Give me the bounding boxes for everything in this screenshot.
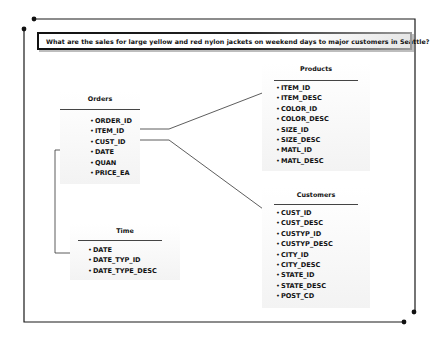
bullet-icon: •: [276, 282, 280, 290]
field-quan: •QUAN: [90, 158, 132, 168]
connector-item-id: [133, 90, 270, 129]
connector-cust-id: [133, 140, 274, 217]
field-label: CITY_DESC: [281, 261, 320, 269]
bullet-icon: •: [276, 292, 280, 300]
bullet-icon: •: [88, 267, 92, 275]
field-color-desc: •COLOR_DESC: [276, 114, 329, 124]
customers-field-list: •CUST_ID •CUST_DESC •CUSTYP_ID •CUSTYP_D…: [276, 208, 333, 302]
bullet-icon: •: [276, 115, 280, 123]
bullet-icon: •: [276, 230, 280, 238]
products-title: Products: [262, 65, 370, 73]
question-banner: What are the sales for large yellow and …: [37, 32, 412, 50]
field-label: CUST_ID: [281, 209, 312, 217]
field-item-id: •ITEM_ID: [276, 83, 329, 93]
field-color-id: •COLOR_ID: [276, 104, 329, 114]
field-city-desc: •CITY_DESC: [276, 260, 333, 270]
field-size-desc: •SIZE_DESC: [276, 135, 329, 145]
field-label: POST_CD: [281, 292, 314, 300]
field-cust-desc: •CUST_DESC: [276, 218, 333, 228]
bullet-icon: •: [276, 240, 280, 248]
field-label: PRICE_EA: [95, 169, 130, 177]
field-matl-id: •MATL_ID: [276, 145, 329, 155]
field-label: CUST_ID: [95, 138, 126, 146]
bullet-icon: •: [276, 136, 280, 144]
field-state-id: •STATE_ID: [276, 270, 333, 280]
bullet-icon: •: [276, 126, 280, 134]
customers-table: Customers •CUST_ID •CUST_DESC •CUSTYP_ID…: [262, 188, 370, 308]
field-label: QUAN: [95, 159, 116, 167]
field-date: •DATE: [90, 147, 132, 157]
field-item-desc: •ITEM_DESC: [276, 93, 329, 103]
field-item-id: •ITEM_ID: [90, 126, 132, 136]
field-label: CITY_ID: [281, 251, 309, 259]
bullet-icon: •: [90, 138, 94, 146]
products-title-rule: [274, 80, 358, 81]
time-table: Time •DATE •DATE_TYP_ID •DATE_TYPE_DESC: [70, 224, 180, 280]
bullet-icon: •: [276, 146, 280, 154]
field-label: COLOR_ID: [281, 105, 317, 113]
field-cust-id: •CUST_ID: [90, 137, 132, 147]
bullet-icon: •: [90, 127, 94, 135]
field-label: DATE: [93, 246, 112, 254]
field-label: MATL_DESC: [281, 157, 324, 165]
field-label: DATE: [95, 148, 114, 156]
customers-title: Customers: [262, 191, 370, 199]
field-label: DATE_TYP_ID: [93, 256, 141, 264]
bullet-icon: •: [276, 94, 280, 102]
orders-title: Orders: [60, 95, 140, 103]
field-custyp-desc: •CUSTYP_DESC: [276, 239, 333, 249]
field-custyp-id: •CUSTYP_ID: [276, 229, 333, 239]
field-label: CUST_DESC: [281, 219, 323, 227]
field-date: •DATE: [88, 245, 157, 255]
bullet-icon: •: [276, 84, 280, 92]
orders-table: Orders •ORDER_ID •ITEM_ID •CUST_ID •DATE…: [60, 92, 140, 184]
customers-title-rule: [274, 204, 358, 205]
bullet-icon: •: [276, 271, 280, 279]
field-matl-desc: •MATL_DESC: [276, 156, 329, 166]
schema-diagram: What are the sales for large yellow and …: [0, 0, 436, 337]
field-cust-id: •CUST_ID: [276, 208, 333, 218]
bullet-icon: •: [90, 169, 94, 177]
orders-title-rule: [60, 109, 140, 110]
field-date-typ-id: •DATE_TYP_ID: [88, 255, 157, 265]
products-table: Products •ITEM_ID •ITEM_DESC •COLOR_ID •…: [262, 63, 370, 171]
bullet-icon: •: [88, 246, 92, 254]
field-state-desc: •STATE_DESC: [276, 281, 333, 291]
field-label: DATE_TYPE_DESC: [93, 267, 157, 275]
field-label: CUSTYP_ID: [281, 230, 321, 238]
field-label: CUSTYP_DESC: [281, 240, 333, 248]
bullet-icon: •: [88, 256, 92, 264]
field-label: ITEM_ID: [95, 127, 124, 135]
field-label: SIZE_DESC: [281, 136, 320, 144]
question-text: What are the sales for large yellow and …: [46, 38, 429, 45]
field-label: STATE_ID: [281, 271, 315, 279]
field-price-ea: •PRICE_EA: [90, 168, 132, 178]
time-field-list: •DATE •DATE_TYP_ID •DATE_TYPE_DESC: [88, 245, 157, 276]
bullet-icon: •: [276, 219, 280, 227]
bullet-icon: •: [276, 105, 280, 113]
field-size-id: •SIZE_ID: [276, 125, 329, 135]
field-date-type-desc: •DATE_TYPE_DESC: [88, 266, 157, 276]
field-label: COLOR_DESC: [281, 115, 329, 123]
time-title: Time: [70, 227, 180, 235]
bullet-icon: •: [276, 157, 280, 165]
orders-field-list: •ORDER_ID •ITEM_ID •CUST_ID •DATE •QUAN …: [90, 116, 132, 178]
field-label: ITEM_ID: [281, 84, 310, 92]
bullet-icon: •: [276, 209, 280, 217]
field-label: SIZE_ID: [281, 126, 309, 134]
field-label: STATE_DESC: [281, 282, 326, 290]
bullet-icon: •: [90, 159, 94, 167]
bullet-icon: •: [276, 261, 280, 269]
bullet-icon: •: [90, 148, 94, 156]
field-label: ITEM_DESC: [281, 94, 322, 102]
field-label: ORDER_ID: [95, 117, 132, 125]
field-city-id: •CITY_ID: [276, 250, 333, 260]
field-label: MATL_ID: [281, 146, 312, 154]
field-post-cd: •POST_CD: [276, 291, 333, 301]
products-field-list: •ITEM_ID •ITEM_DESC •COLOR_ID •COLOR_DES…: [276, 83, 329, 166]
bullet-icon: •: [276, 251, 280, 259]
field-order-id: •ORDER_ID: [90, 116, 132, 126]
time-title-rule: [78, 240, 162, 241]
bullet-icon: •: [90, 117, 94, 125]
